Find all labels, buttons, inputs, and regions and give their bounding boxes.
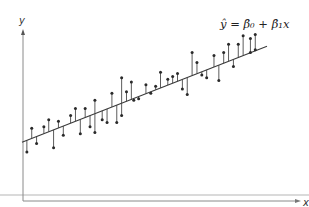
data-point [74,107,77,110]
data-point [42,125,45,128]
data-point [106,121,109,124]
data-point [166,78,169,81]
data-point [237,43,240,46]
data-point [181,88,184,91]
data-point [132,99,135,102]
data-point [62,134,65,137]
data-point [144,83,147,86]
data-point [212,54,215,57]
data-points [25,33,256,154]
data-point [47,118,50,121]
data-point [93,131,96,134]
y-axis-arrow-icon [21,29,25,35]
x-axis-label: x [302,197,309,207]
data-point [205,76,208,79]
data-point [159,71,162,74]
data-point [227,43,230,46]
data-point [30,127,33,130]
x-axis-arrow-icon [295,199,301,203]
data-point [89,125,92,128]
data-point [171,75,174,78]
data-point [57,120,60,123]
data-point [249,51,252,54]
regression-line [22,46,267,142]
data-point [149,92,152,95]
data-point [110,92,113,95]
data-point [154,85,157,88]
data-point [69,114,72,117]
residual-lines [27,34,255,152]
data-point [232,65,235,68]
data-point [120,76,123,79]
data-point [52,146,55,149]
data-point [217,79,220,82]
y-axis-label: y [18,15,26,26]
regression-equation: ŷ = β̂₀ + β̂₁x [219,17,290,31]
data-point [242,34,245,37]
data-point [191,51,194,54]
data-point [195,61,198,64]
data-point [254,33,257,36]
data-point [93,99,96,102]
data-point [35,142,38,145]
data-point [130,81,133,84]
data-point [176,72,179,75]
data-point [254,48,257,51]
data-point [79,132,82,135]
data-point [101,118,104,121]
data-point [249,37,252,40]
data-point [125,90,128,93]
regression-chart: y x ŷ = β̂₀ + β̂₁x [0,0,309,207]
data-point [137,97,140,100]
data-point [186,93,189,96]
data-point [120,114,123,117]
data-point [115,121,118,124]
data-point [222,51,225,54]
data-point [84,107,87,110]
data-point [25,151,28,154]
data-point [200,74,203,77]
